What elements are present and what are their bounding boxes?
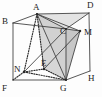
cube-diagram-svg <box>0 0 102 97</box>
edge-AN <box>24 14 37 72</box>
label-D: D <box>87 1 94 10</box>
label-H: H <box>88 74 95 83</box>
label-M: M <box>84 28 92 37</box>
label-F: F <box>2 84 7 93</box>
vertex-dot-E <box>43 68 46 71</box>
label-N: N <box>14 65 21 74</box>
vertex-dot-G <box>65 79 67 81</box>
label-G: G <box>60 84 67 93</box>
geometry-figure: BADCMNEFGH <box>0 0 102 97</box>
label-B: B <box>2 17 8 26</box>
edge-GH <box>66 71 90 80</box>
vertex-dot-A <box>36 13 38 15</box>
vertex-dot-N <box>23 71 26 74</box>
edge-DH <box>89 13 90 71</box>
label-E: E <box>41 59 47 68</box>
label-C: C <box>60 27 66 36</box>
vertex-dot-M <box>79 30 82 33</box>
label-A: A <box>33 3 40 12</box>
edge-BA <box>13 14 37 23</box>
